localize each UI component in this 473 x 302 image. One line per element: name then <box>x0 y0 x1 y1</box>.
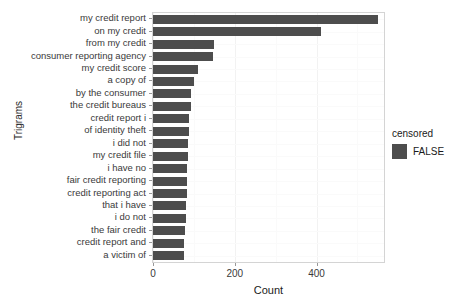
gridline-horizontal <box>153 231 384 232</box>
bar <box>153 27 321 36</box>
gridline-horizontal <box>153 243 384 244</box>
y-axis-title: Trigrams <box>13 81 24 161</box>
y-axis-tick-mark <box>149 217 152 218</box>
y-axis-tick-label: i do not <box>115 211 146 222</box>
bar <box>153 226 185 235</box>
x-axis-tick-label: 200 <box>215 268 255 279</box>
y-axis-tick-label: fair credit reporting <box>67 174 146 185</box>
y-axis-tick-mark <box>149 43 152 44</box>
y-axis-tick-label: from my credit <box>86 37 146 48</box>
y-axis-tick-label: my credit file <box>93 149 146 160</box>
bar <box>153 52 213 61</box>
y-axis-tick-mark <box>149 31 152 32</box>
bar <box>153 239 184 248</box>
y-axis-tick-label: a copy of <box>107 74 146 85</box>
y-axis-tick-mark <box>149 180 152 181</box>
y-axis-tick-label: a victim of <box>103 249 146 260</box>
y-axis-tick-label: consumer reporting agency <box>31 50 146 61</box>
y-axis-tick-label: of identity theft <box>84 124 146 135</box>
y-axis-tick-label: my credit score <box>82 62 146 73</box>
y-axis-tick-mark <box>149 242 152 243</box>
y-axis-tick-mark <box>149 18 152 19</box>
bar <box>153 65 198 74</box>
gridline-vertical-minor <box>357 13 358 262</box>
bar <box>153 40 214 49</box>
y-axis-tick-label: the credit bureaus <box>70 99 146 110</box>
y-axis-tick-label: my credit report <box>80 12 146 23</box>
y-axis-tick-label: i have no <box>107 162 146 173</box>
gridline-vertical-minor <box>276 13 277 262</box>
x-axis-tick-label: 0 <box>133 268 173 279</box>
y-axis-tick-mark <box>149 56 152 57</box>
gridline-vertical-minor <box>194 13 195 262</box>
y-axis-tick-mark <box>149 68 152 69</box>
legend-item-false[interactable]: FALSE <box>392 144 470 159</box>
bar <box>153 177 187 186</box>
y-axis-tick-mark <box>149 155 152 156</box>
gridline-horizontal <box>153 256 384 257</box>
bar-chart: Trigrams my credit reporton my creditfro… <box>0 0 473 302</box>
y-axis-tick-label: i did not <box>113 137 146 148</box>
bar <box>153 164 187 173</box>
y-axis-tick-mark <box>149 118 152 119</box>
y-axis-tick-mark <box>149 205 152 206</box>
bar <box>153 251 184 260</box>
gridline-vertical <box>235 13 236 262</box>
gridline-horizontal <box>153 181 384 182</box>
y-axis-tick-label: the fair credit <box>91 224 146 235</box>
bar <box>153 214 186 223</box>
y-axis-tick-mark <box>149 255 152 256</box>
y-axis-tick-label: credit reporting act <box>67 187 146 198</box>
x-axis-tick-mark <box>153 263 154 266</box>
y-axis-tick-mark <box>149 168 152 169</box>
y-axis-tick-label: that i have <box>102 199 146 210</box>
bar <box>153 189 187 198</box>
x-axis-tick-label: 400 <box>297 268 337 279</box>
y-axis-tick-mark <box>149 230 152 231</box>
bar <box>153 102 191 111</box>
gridline-vertical <box>153 13 154 262</box>
x-axis-tick-mark <box>235 263 236 266</box>
y-axis-tick-mark <box>149 130 152 131</box>
plot-panel <box>152 12 385 263</box>
bar <box>153 89 191 98</box>
gridline-horizontal <box>153 169 384 170</box>
x-axis-title: Count <box>152 284 385 296</box>
gridline-horizontal <box>153 218 384 219</box>
gridline-horizontal <box>153 206 384 207</box>
legend-title: censored <box>392 128 470 139</box>
gridline-vertical <box>317 13 318 262</box>
bar <box>153 77 194 86</box>
y-axis-tick-label: by the consumer <box>76 87 146 98</box>
legend: censored FALSE <box>392 128 470 159</box>
y-axis-tick-mark <box>149 80 152 81</box>
x-axis-tick-mark <box>317 263 318 266</box>
y-axis-tick-mark <box>149 143 152 144</box>
legend-item-label: FALSE <box>413 146 444 157</box>
legend-swatch-icon <box>392 144 407 159</box>
y-axis-tick-mark <box>149 105 152 106</box>
bar <box>153 152 188 161</box>
y-axis-tick-label: credit report and <box>77 236 146 247</box>
bar <box>153 114 189 123</box>
bar <box>153 201 186 210</box>
y-axis-tick-label: on my credit <box>94 25 146 36</box>
y-axis-tick-mark <box>149 93 152 94</box>
gridline-horizontal <box>153 194 384 195</box>
bar <box>153 139 188 148</box>
bar <box>153 15 378 24</box>
y-axis-tick-mark <box>149 193 152 194</box>
bar <box>153 127 189 136</box>
y-axis-tick-label: credit report i <box>91 112 146 123</box>
